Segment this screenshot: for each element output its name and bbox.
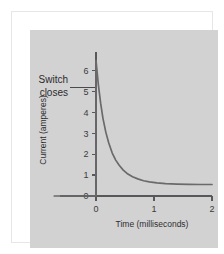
y-axis-tick-label: 1 <box>83 170 88 180</box>
figure-frame: 0123456012SwitchclosesTime (milliseconds… <box>11 11 213 243</box>
y-axis-tick-label: 6 <box>83 66 88 76</box>
x-axis-tick-label: 0 <box>93 204 98 214</box>
figure-root: 0123456012SwitchclosesTime (milliseconds… <box>0 0 224 254</box>
chart-canvas: 0123456012SwitchclosesTime (milliseconds… <box>30 30 218 248</box>
y-axis-tick-label: 3 <box>83 129 88 139</box>
plot-panel: 0123456012SwitchclosesTime (milliseconds… <box>30 30 218 248</box>
y-axis-tick-label: 4 <box>83 108 88 118</box>
annotation-line-1: Switch <box>39 74 68 85</box>
y-axis-tick-label: 2 <box>83 149 88 159</box>
y-axis-tick-label: 5 <box>83 87 88 97</box>
x-axis-tick-label: 1 <box>151 204 156 214</box>
x-axis-title: Time (milliseconds) <box>116 219 189 229</box>
y-axis-title: Current (amperes) <box>38 95 48 165</box>
x-axis-tick-label: 2 <box>209 204 214 214</box>
current-decay-curve <box>54 60 212 196</box>
